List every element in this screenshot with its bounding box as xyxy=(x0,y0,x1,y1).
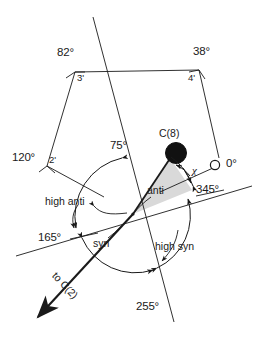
ring-angle-82: 82° xyxy=(57,47,74,59)
atom-label-c8: C(8) xyxy=(159,128,179,139)
ring-angle-38: 38° xyxy=(193,46,210,58)
zone-label-high-syn: high syn xyxy=(155,241,194,252)
axis-label-255: 255° xyxy=(136,301,159,313)
axis-label-75: 75° xyxy=(110,140,127,152)
axis-label-165: 165° xyxy=(38,232,61,244)
ring-atom-3prime: 3' xyxy=(77,73,84,83)
zone-label-syn: syn xyxy=(93,238,109,249)
zone-label-anti: anti xyxy=(147,185,164,196)
axis-label-345: 345° xyxy=(196,184,219,196)
diagram-canvas xyxy=(0,0,268,340)
arc-high-anti xyxy=(75,158,122,228)
ring-atom-2prime: 2' xyxy=(49,155,56,165)
sugar-ring-skeleton xyxy=(47,70,219,197)
ring-atom-4prime: 4' xyxy=(188,73,195,83)
atom-o xyxy=(210,160,219,169)
axis-label-0: 0° xyxy=(226,158,237,170)
ring-angle-120: 120° xyxy=(12,152,35,164)
zone-label-high-anti: high anti xyxy=(45,196,85,207)
hub-point xyxy=(131,212,134,215)
leader-high-anti-b xyxy=(94,206,127,214)
chi-symbol: χ xyxy=(192,165,197,176)
torsion-angle-diagram: 82° 3' 38° 4' 120° 2' C(8) 0° 75° 165° 2… xyxy=(0,0,268,340)
